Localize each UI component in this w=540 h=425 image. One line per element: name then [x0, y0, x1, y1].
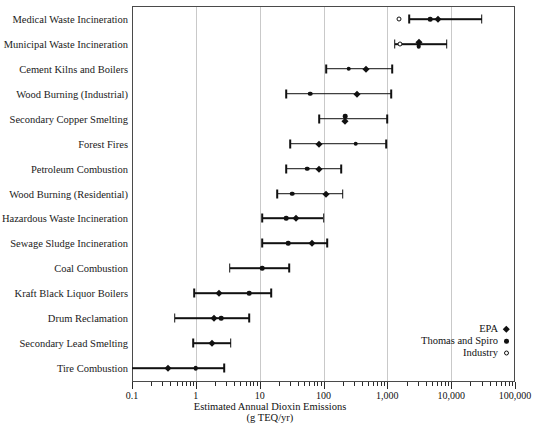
- range-cap: [192, 339, 194, 348]
- minor-tick: [162, 382, 163, 386]
- minor-tick: [426, 382, 427, 386]
- minor-tick: [190, 382, 191, 386]
- range-bar: [277, 193, 342, 195]
- minor-tick: [240, 382, 241, 386]
- minor-tick: [381, 382, 382, 386]
- minor-tick: [505, 382, 506, 386]
- category-label: Medical Waste Incineration: [0, 14, 128, 25]
- data-point-filled-circle: [219, 316, 224, 321]
- minor-tick: [448, 382, 449, 386]
- major-tick: [387, 382, 388, 389]
- minor-tick: [470, 382, 471, 386]
- minor-tick: [226, 382, 227, 386]
- range-cap: [446, 39, 448, 48]
- range-cap: [194, 289, 196, 298]
- range-cap: [387, 114, 389, 123]
- range-cap: [481, 15, 483, 24]
- minor-tick: [298, 382, 299, 386]
- range-cap: [394, 39, 396, 48]
- range-cap: [325, 64, 327, 73]
- range-bar: [409, 18, 481, 20]
- range-cap: [224, 364, 226, 373]
- minor-tick: [441, 382, 442, 386]
- minor-tick: [290, 382, 291, 386]
- data-point-filled-circle: [416, 44, 421, 49]
- tick-label: 10,000: [437, 390, 465, 401]
- minor-tick: [314, 382, 315, 386]
- chart-legend: EPAThomas and SpiroIndustry: [398, 323, 510, 359]
- minor-tick: [407, 382, 408, 386]
- legend-marker-open-circle: [504, 351, 509, 356]
- major-tick: [260, 382, 261, 389]
- data-point-filled-circle: [284, 216, 289, 221]
- minor-tick: [512, 382, 513, 386]
- major-tick: [196, 382, 197, 389]
- minor-tick: [354, 382, 355, 386]
- x-axis-title-units: (g TEQ/yr): [0, 412, 540, 423]
- category-label: Tire Combustion: [0, 363, 128, 374]
- range-cap: [390, 89, 392, 98]
- category-label: Hazardous Waste Incineration: [0, 213, 128, 224]
- data-point-open-circle: [396, 17, 401, 22]
- category-label: Wood Burning (Industrial): [0, 88, 128, 99]
- legend-label: Thomas and Spiro: [421, 335, 510, 347]
- data-point-filled-circle: [428, 17, 433, 22]
- data-point-filled-circle: [305, 166, 310, 171]
- range-cap: [408, 15, 410, 24]
- minor-tick: [501, 382, 502, 386]
- tick-label: 100,000: [499, 390, 532, 401]
- category-label: Kraft Black Liquor Boilers: [0, 288, 128, 299]
- range-bar: [194, 292, 270, 294]
- category-label: Secondary Copper Smelting: [0, 113, 128, 124]
- range-bar: [132, 367, 224, 369]
- range-cap: [288, 264, 290, 273]
- legend-label: Industry: [463, 347, 510, 359]
- category-label: Sewage Sludge Incineration: [0, 238, 128, 249]
- major-tick: [324, 382, 325, 389]
- minor-tick: [418, 382, 419, 386]
- minor-tick: [445, 382, 446, 386]
- minor-tick: [193, 382, 194, 386]
- minor-tick: [343, 382, 344, 386]
- tick-label: 10: [255, 390, 265, 401]
- range-cap: [262, 239, 264, 248]
- minor-tick: [309, 382, 310, 386]
- minor-tick: [250, 382, 251, 386]
- range-bar: [326, 68, 392, 70]
- range-cap: [323, 214, 325, 223]
- minor-tick: [437, 382, 438, 386]
- legend-item: Industry: [398, 347, 510, 359]
- legend-item: Thomas and Spiro: [398, 335, 510, 347]
- range-cap: [340, 164, 342, 173]
- range-cap: [285, 89, 287, 98]
- range-bar: [286, 93, 391, 95]
- minor-tick: [304, 382, 305, 386]
- category-label: Municipal Waste Incineration: [0, 38, 128, 49]
- range-bar: [262, 243, 327, 245]
- minor-tick: [186, 382, 187, 386]
- range-cap: [342, 189, 344, 198]
- minor-tick: [317, 382, 318, 386]
- range-cap: [385, 139, 387, 148]
- range-bar: [290, 143, 386, 145]
- range-cap: [229, 264, 231, 273]
- major-tick: [515, 382, 516, 389]
- tick-label: 1,000: [376, 390, 399, 401]
- gridline: [196, 7, 197, 381]
- minor-tick: [177, 382, 178, 386]
- x-axis-title: Estimated Annual Dioxin Emissions: [0, 401, 540, 412]
- minor-tick: [234, 382, 235, 386]
- minor-tick: [373, 382, 374, 386]
- data-point-filled-circle: [353, 141, 358, 146]
- minor-tick: [496, 382, 497, 386]
- category-label: Coal Combustion: [0, 263, 128, 274]
- range-cap: [174, 314, 176, 323]
- minor-tick: [362, 382, 363, 386]
- data-point-filled-circle: [194, 366, 199, 371]
- range-cap: [230, 339, 232, 348]
- category-label: Petroleum Combustion: [0, 163, 128, 174]
- range-cap: [392, 64, 394, 73]
- x-axis-ticks: [132, 382, 515, 390]
- data-point-filled-circle: [286, 241, 291, 246]
- legend-item: EPA: [398, 323, 510, 335]
